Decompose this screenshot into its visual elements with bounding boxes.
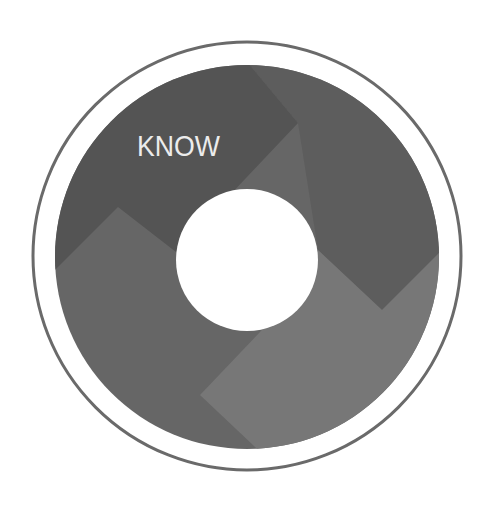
disc-body xyxy=(40,10,480,480)
center-hole xyxy=(176,189,318,331)
disc-graphic xyxy=(0,0,493,509)
know-label: KNOW xyxy=(137,132,220,161)
